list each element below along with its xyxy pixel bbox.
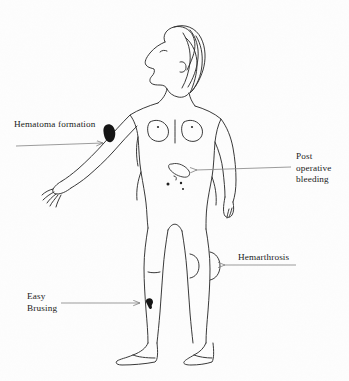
right-leg-outer-line	[144, 228, 148, 343]
body-outline	[42, 26, 236, 365]
right-foot-ankle-line	[133, 355, 155, 358]
chin-jaw-line	[167, 89, 189, 97]
left-leg-outer-line	[206, 229, 210, 343]
breast-right-outline	[182, 120, 203, 141]
hematoma-arrow	[16, 143, 103, 146]
breast-left-outline	[148, 120, 169, 141]
knee-effusion-oval-inner	[190, 254, 199, 278]
label-post-operative-bleeding: Post operative bleeding	[296, 151, 332, 186]
right-hand-fingers	[42, 189, 61, 207]
label-hematoma-formation: Hematoma formation	[14, 119, 96, 131]
right-arm-inner-line	[71, 126, 137, 188]
hip-right-curve	[212, 177, 216, 205]
left-arm-outer-line	[221, 119, 236, 202]
right-foot-outline	[116, 343, 157, 365]
right-hand-palm	[53, 181, 71, 194]
neck-right-line	[189, 93, 195, 106]
ear-outline	[180, 62, 186, 73]
navel-mark	[174, 176, 176, 180]
surgical-wound-marker	[169, 163, 190, 177]
hematoma-blob-marker	[103, 124, 115, 142]
label-easy-bruising: Easy Brusing	[27, 291, 57, 314]
post-operative-arrow	[196, 167, 291, 170]
shin-bruise-marker	[146, 298, 153, 309]
hip-left-curve	[137, 172, 141, 200]
eye-line	[160, 50, 167, 52]
illustration-page: Hematoma formation Post operative bleedi…	[0, 0, 349, 381]
left-foot-ankle-line	[194, 355, 212, 358]
knee-effusion-oval	[210, 252, 220, 280]
nipple-left	[157, 126, 159, 128]
right-leg-inner-line	[157, 230, 168, 343]
left-leg-inner-line	[182, 231, 193, 343]
face-profile-line	[145, 42, 167, 89]
left-foot-outline	[184, 343, 214, 365]
waist-left-curve	[137, 137, 139, 166]
label-hemarthrosis: Hemarthrosis	[238, 252, 289, 264]
neck-left-line	[158, 89, 167, 103]
left-hand-outline	[224, 197, 234, 217]
body-figure-illustration	[0, 0, 349, 381]
torso-left-outline	[130, 103, 158, 228]
knee-right-crease	[148, 272, 160, 273]
hair-outline	[174, 26, 205, 93]
petechiae-dots-marker	[167, 182, 185, 190]
nipple-right	[191, 126, 193, 128]
crotch-line	[168, 224, 182, 231]
